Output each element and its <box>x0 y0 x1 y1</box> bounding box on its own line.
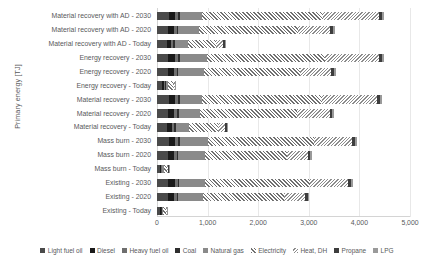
bar-segment-light-fuel-oil[interactable] <box>157 179 168 187</box>
bar-segment-heat-dh[interactable] <box>300 68 331 76</box>
stacked-bar-chart: Primary energy [TJ] Material recovery wi… <box>0 0 434 263</box>
bar-segment-electricity[interactable] <box>189 123 218 131</box>
bar-segment-natural-gas[interactable] <box>180 95 202 103</box>
x-tick-label: 0 <box>155 219 159 226</box>
legend-item-light-fuel-oil[interactable]: Light fuel oil <box>40 247 82 254</box>
legend-item-natural-gas[interactable]: Natural gas <box>203 247 244 254</box>
legend-label: Heat, DH <box>300 247 327 254</box>
bar-segment-natural-gas[interactable] <box>176 123 189 131</box>
category-labels: Material recovery with AD - 2030Material… <box>18 8 154 217</box>
bar-segment-lpg[interactable] <box>227 123 228 131</box>
bar-segment-electricity[interactable] <box>202 12 323 20</box>
bar-segment-light-fuel-oil[interactable] <box>157 151 168 159</box>
bar-segment-natural-gas[interactable] <box>175 40 188 48</box>
x-tick-label: 2,000 <box>250 219 267 226</box>
bar-segment-diesel[interactable] <box>169 137 176 145</box>
bar-segment-heat-dh[interactable] <box>322 95 377 103</box>
x-tick-label: 1,000 <box>199 219 216 226</box>
bar-segment-electricity[interactable] <box>207 54 326 62</box>
bar-segment-light-fuel-oil[interactable] <box>157 137 169 145</box>
legend-label: Natural gas <box>211 247 244 254</box>
bar-segment-heat-dh[interactable] <box>218 123 225 131</box>
legend-swatch-coal-icon <box>175 248 180 253</box>
legend-label: Electricity <box>258 247 286 254</box>
bar-segment-lpg[interactable] <box>332 109 334 117</box>
legend-label: LPG <box>381 247 394 254</box>
bar-segment-heat-dh[interactable] <box>310 179 347 187</box>
bar-segment-lpg[interactable] <box>382 54 384 62</box>
bar-segment-electricity[interactable] <box>208 137 314 145</box>
bar-segment-electricity[interactable] <box>204 68 300 76</box>
bar-segment-diesel[interactable] <box>169 95 176 103</box>
bar-segment-light-fuel-oil[interactable] <box>157 40 167 48</box>
legend-item-propane[interactable]: Propane <box>334 247 366 254</box>
bar-segment-lpg[interactable] <box>310 151 312 159</box>
bar-segment-light-fuel-oil[interactable] <box>157 95 169 103</box>
bar-segment-heat-dh[interactable] <box>216 40 223 48</box>
legend-label: Coal <box>183 247 196 254</box>
bar-segment-electricity[interactable] <box>199 26 298 34</box>
bar-segment-lpg[interactable] <box>351 179 353 187</box>
bar-segment-lpg[interactable] <box>175 81 176 89</box>
bar-segment-lpg[interactable] <box>382 12 384 20</box>
x-tick-label: 5,000 <box>401 219 418 226</box>
legend-item-lpg[interactable]: LPG <box>373 247 393 254</box>
legend-item-coal[interactable]: Coal <box>175 247 196 254</box>
x-axis-ticks: 01,0002,0003,0004,0005,000 <box>157 219 410 231</box>
bar-segment-natural-gas[interactable] <box>180 137 208 145</box>
bar-segment-heat-dh[interactable] <box>297 109 329 117</box>
bar-segment-natural-gas[interactable] <box>178 151 204 159</box>
bar-segment-electricity[interactable] <box>205 151 287 159</box>
bar-segment-electricity[interactable] <box>200 109 298 117</box>
bar-segment-natural-gas[interactable] <box>179 179 205 187</box>
bar-segment-natural-gas[interactable] <box>180 54 207 62</box>
bar-segment-natural-gas[interactable] <box>180 12 202 20</box>
bar-segment-diesel[interactable] <box>169 12 176 20</box>
bar-segment-natural-gas[interactable] <box>178 193 203 201</box>
legend-swatch-electricity-icon <box>251 248 256 253</box>
legend-swatch-heat-dh-icon <box>293 248 298 253</box>
x-tick-label: 4,000 <box>351 219 368 226</box>
bar-segment-heat-dh[interactable] <box>298 26 331 34</box>
bar-segment-heat-dh[interactable] <box>314 137 352 145</box>
bar-segment-diesel[interactable] <box>168 54 175 62</box>
bar-segment-lpg[interactable] <box>333 26 335 34</box>
legend-swatch-heavy-fuel-oil-icon <box>122 248 127 253</box>
legend-swatch-lpg-icon <box>373 248 378 253</box>
legend-item-heat-dh[interactable]: Heat, DH <box>293 247 327 254</box>
bar-segment-lpg[interactable] <box>225 40 226 48</box>
legend-label: Light fuel oil <box>48 247 83 254</box>
bar-segment-electricity[interactable] <box>205 179 310 187</box>
bar-segment-light-fuel-oil[interactable] <box>157 193 168 201</box>
x-axis-line <box>157 216 410 217</box>
bar-segment-lpg[interactable] <box>355 137 357 145</box>
x-tick-label: 3,000 <box>300 219 317 226</box>
bar-segment-natural-gas[interactable] <box>178 26 198 34</box>
bar-segment-lpg[interactable] <box>380 95 382 103</box>
bar-segment-heat-dh[interactable] <box>287 151 308 159</box>
chart-legend: Light fuel oilDieselHeavy fuel oilCoalNa… <box>0 243 434 257</box>
legend-item-diesel[interactable]: Diesel <box>90 247 115 254</box>
bar-segment-light-fuel-oil[interactable] <box>157 54 168 62</box>
bar-segment-heat-dh[interactable] <box>325 54 379 62</box>
plot-area <box>157 8 410 217</box>
bar-segment-light-fuel-oil[interactable] <box>157 12 169 20</box>
bar-segment-light-fuel-oil[interactable] <box>157 123 167 131</box>
bar-segment-natural-gas[interactable] <box>179 109 200 117</box>
legend-label: Propane <box>342 247 367 254</box>
bar-segment-electricity[interactable] <box>203 193 284 201</box>
bar-segment-electricity[interactable] <box>188 40 216 48</box>
bar-segment-light-fuel-oil[interactable] <box>157 109 168 117</box>
bar-segment-lpg[interactable] <box>308 193 310 201</box>
bar-segment-lpg[interactable] <box>334 68 336 76</box>
bar-segment-heat-dh[interactable] <box>323 12 379 20</box>
bar-segment-heat-dh[interactable] <box>284 193 305 201</box>
legend-item-electricity[interactable]: Electricity <box>251 247 286 254</box>
bar-segment-natural-gas[interactable] <box>178 68 204 76</box>
legend-swatch-light-fuel-oil-icon <box>40 248 45 253</box>
bar-segment-electricity[interactable] <box>202 95 322 103</box>
bar-segment-light-fuel-oil[interactable] <box>157 26 168 34</box>
bar-segment-light-fuel-oil[interactable] <box>157 68 168 76</box>
legend-item-heavy-fuel-oil[interactable]: Heavy fuel oil <box>122 247 168 254</box>
gridline <box>410 8 411 217</box>
